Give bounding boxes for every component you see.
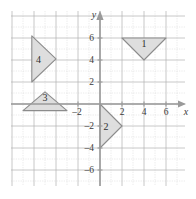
shape-label-4: 4 <box>36 54 41 65</box>
shape-label-2: 2 <box>104 121 109 132</box>
x-axis-label: x <box>183 106 189 117</box>
coordinate-plane-figure: –2246642–2–4–6xy1234 <box>0 0 196 199</box>
y-axis-label: y <box>91 9 97 20</box>
shape-label-1: 1 <box>142 38 147 49</box>
y-tick-label: –4 <box>84 143 95 153</box>
x-tick-label: –2 <box>71 107 82 117</box>
x-tick-label: 6 <box>164 107 169 117</box>
y-tick-label: 2 <box>89 77 94 87</box>
x-tick-label: 4 <box>142 107 147 117</box>
shape-label-3: 3 <box>43 92 48 103</box>
y-axis-arrow-icon <box>96 11 103 21</box>
y-tick-label: –2 <box>84 121 95 131</box>
x-tick-label: 2 <box>120 107 125 117</box>
y-tick-label: –6 <box>84 165 95 175</box>
axis-names-layer: xy <box>91 9 189 117</box>
coordinate-plane-svg: –2246642–2–4–6xy1234 <box>0 0 196 199</box>
y-tick-label: 6 <box>89 33 94 43</box>
y-tick-label: 4 <box>89 55 94 65</box>
